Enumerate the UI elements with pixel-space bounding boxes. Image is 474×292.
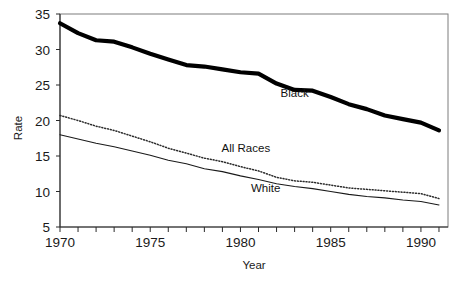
series-line-black (60, 23, 439, 130)
series-line-all-races (60, 116, 439, 199)
y-tick-label: 5 (42, 220, 50, 235)
figure-container: 19701975198019851990 5101520253035 Black… (0, 0, 474, 292)
plot-area-border (60, 14, 448, 227)
y-tick-label: 35 (35, 7, 50, 22)
x-axis-ticks (60, 227, 439, 232)
line-chart: 19701975198019851990 5101520253035 Black… (0, 0, 474, 292)
x-tick-label: 1985 (316, 235, 346, 250)
y-tick-label: 25 (35, 78, 50, 93)
y-tick-label: 10 (35, 185, 50, 200)
y-axis-tick-labels: 5101520253035 (35, 7, 50, 235)
x-tick-label: 1975 (135, 235, 165, 250)
series-lines (60, 23, 439, 205)
y-axis-ticks (56, 14, 60, 227)
y-tick-label: 20 (35, 114, 50, 129)
y-tick-label: 15 (35, 149, 50, 164)
x-tick-label: 1970 (45, 235, 75, 250)
series-label-black: Black (281, 87, 309, 99)
x-tick-label: 1980 (225, 235, 255, 250)
x-axis-title: Year (242, 259, 265, 271)
series-label-white: White (251, 182, 280, 194)
y-axis-title: Rate (12, 116, 24, 140)
x-axis-tick-labels: 19701975198019851990 (45, 235, 436, 250)
series-label-all-races: All Races (222, 142, 271, 154)
series-annotations: BlackAll RacesWhite (222, 87, 309, 193)
figure-caption-strip (0, 285, 474, 292)
y-tick-label: 30 (35, 43, 50, 58)
x-tick-label: 1990 (406, 235, 436, 250)
